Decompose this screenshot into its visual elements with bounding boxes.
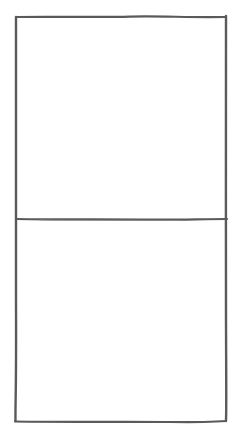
panel-divider-line [16,219,227,220]
sketch-canvas [0,0,244,438]
bottom-panel [17,220,225,420]
top-panel [17,18,225,218]
frame-bottom-edge [15,421,226,422]
frame-top-edge [16,16,226,17]
